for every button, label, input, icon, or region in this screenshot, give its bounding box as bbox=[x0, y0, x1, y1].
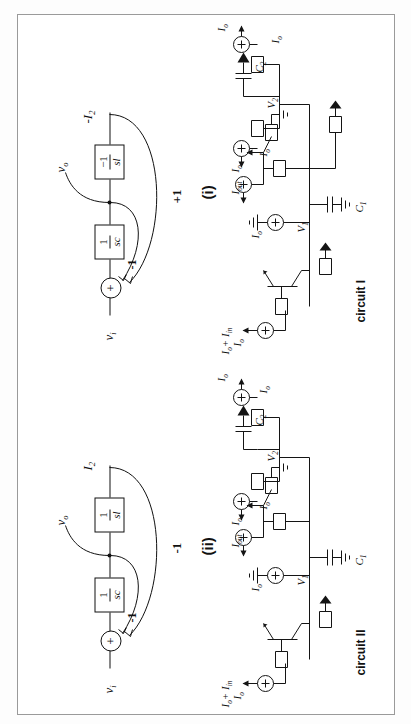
rotated-figure-canvas: + 1 sc 1 sl bbox=[17, 14, 395, 715]
circuit-ii-schematic bbox=[223, 377, 373, 707]
bd1-outer-feedback-arc bbox=[109, 114, 156, 282]
c1-bias-io-3-label: Io bbox=[229, 165, 243, 172]
bd2-outer-gain-label: -1 bbox=[169, 542, 182, 553]
bd2-current-label: I2 bbox=[80, 461, 96, 470]
c1-bias-io-1-label: Io bbox=[249, 231, 263, 238]
c2-iout-label: Iout bbox=[229, 534, 243, 547]
c1-bias-io-2-label: Io bbox=[231, 339, 245, 346]
c2-bias-io-4-label: Io bbox=[257, 502, 271, 509]
c1-node-v2-label: V2 bbox=[265, 98, 279, 108]
c2-cap-c1-label: C1 bbox=[353, 554, 367, 565]
c2-node-v1-label: V1 bbox=[295, 575, 309, 585]
c1-node-v1-label: V1 bbox=[295, 222, 309, 232]
bd1-inner-gain-label: -1 bbox=[125, 259, 137, 269]
circuit-i-schematic bbox=[223, 24, 373, 354]
figure-frame: + 1 sc 1 sl bbox=[17, 14, 395, 715]
c2-bias-io-1-label: Io bbox=[249, 584, 263, 591]
c2-bias-io-2-label: Io bbox=[231, 692, 245, 699]
c1-bias-io-4-label: Io bbox=[257, 149, 271, 156]
bd1-vo-leader bbox=[65, 172, 109, 202]
c1-cap-c2-label: C2 bbox=[253, 61, 267, 72]
circuit-i-caption: circuit I bbox=[353, 279, 367, 322]
c2-bias-io-5-label: Io bbox=[257, 386, 271, 393]
circuit-ii-caption: circuit II bbox=[353, 629, 367, 675]
c1-cap-c1-label: C1 bbox=[353, 201, 367, 212]
bd2-output-label: vo bbox=[53, 515, 69, 525]
bd1-output-label: vo bbox=[53, 162, 69, 172]
c2-bias-io-6-label: Io bbox=[215, 374, 229, 381]
bd1-current-label: -I2 bbox=[80, 110, 96, 123]
bd1-outer-gain-label: +1 bbox=[169, 189, 182, 203]
bd2-input-label: vi bbox=[101, 685, 117, 693]
bd1-input-label: vi bbox=[101, 332, 117, 340]
c2-cap-c2-label: C2 bbox=[253, 414, 267, 425]
c2-node-v2-label: V2 bbox=[265, 451, 279, 461]
bd2-inner-gain-label: -1 bbox=[125, 612, 137, 622]
c1-bias-io-6-label: Io bbox=[215, 24, 229, 31]
bd2-outer-feedback-arc bbox=[109, 467, 156, 635]
bd1-index-label: (i) bbox=[199, 185, 214, 199]
bd2-vo-leader bbox=[65, 525, 109, 555]
c2-bias-io-3-label: Io bbox=[229, 518, 243, 525]
c1-bias-io-5-label: Io bbox=[269, 36, 283, 43]
figure-page: + 1 sc 1 sl bbox=[0, 0, 411, 724]
bd2-index-label: (ii) bbox=[199, 537, 214, 555]
c1-iout-label: Iout bbox=[229, 181, 243, 194]
